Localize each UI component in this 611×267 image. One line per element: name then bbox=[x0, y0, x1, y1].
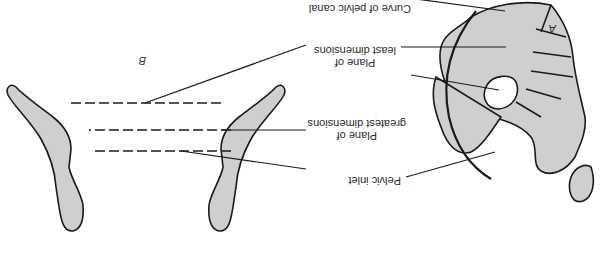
figure-label-a: A bbox=[549, 23, 556, 35]
label-greatest-line2: greatest dimensions bbox=[308, 118, 406, 130]
plane-dashes bbox=[71, 103, 231, 151]
figure-label-b: B bbox=[139, 55, 146, 67]
pelvic-planes-diagram: B A Curve of pelvic canal Plane of least… bbox=[0, 0, 611, 267]
figure-a-pelvis-sagittal bbox=[433, 3, 593, 202]
label-plane-least-dimensions: Plane of least dimensions bbox=[314, 45, 396, 69]
label-least-line2: least dimensions bbox=[314, 45, 396, 57]
label-plane-greatest-dimensions: Plane of greatest dimensions bbox=[308, 118, 406, 142]
label-pelvic-inlet: Pelvic inlet bbox=[348, 175, 401, 187]
label-greatest-line1: Plane of bbox=[308, 130, 406, 142]
diagram-artwork bbox=[0, 0, 611, 267]
figure-b-pelvis-section bbox=[7, 85, 285, 231]
label-least-line1: Plane of bbox=[314, 57, 396, 69]
label-curve-of-pelvic-canal: Curve of pelvic canal bbox=[309, 3, 411, 15]
